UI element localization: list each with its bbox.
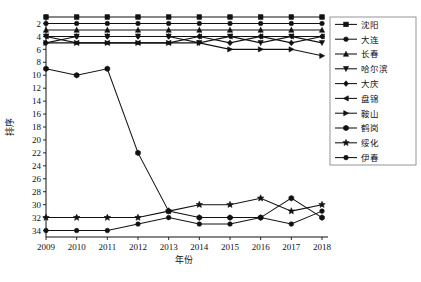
legend-item-label: 大连 — [361, 35, 379, 45]
y-tick-label: 28 — [32, 187, 42, 197]
legend-item-label: 大庆 — [361, 79, 379, 89]
data-point-circle — [44, 21, 49, 26]
data-point-circle — [166, 21, 171, 26]
data-point-square — [105, 15, 110, 20]
x-tick-label: 2014 — [190, 242, 209, 252]
y-tick-label: 16 — [32, 109, 42, 119]
data-point-circle-filled — [258, 215, 263, 220]
legend-item-label: 沈阳 — [361, 20, 379, 30]
y-tick-label: 30 — [32, 200, 42, 210]
y-tick-label: 18 — [32, 122, 42, 132]
y-tick-label: 14 — [32, 96, 42, 106]
data-point-hexagon — [344, 125, 349, 131]
data-point-square — [74, 15, 79, 20]
y-tick-label: 20 — [32, 135, 42, 145]
data-point-hexagon — [197, 215, 202, 221]
data-point-circle-filled — [289, 222, 294, 227]
data-point-square — [228, 15, 233, 20]
x-tick-label: 2018 — [313, 242, 332, 252]
data-point-square — [136, 15, 141, 20]
x-tick-label: 2013 — [160, 242, 179, 252]
data-point-square — [320, 15, 325, 20]
data-point-circle-filled — [228, 222, 233, 227]
data-point-square — [197, 15, 202, 20]
x-tick-label: 2016 — [252, 242, 271, 252]
data-point-circle-filled — [44, 228, 49, 233]
data-point-circle-filled — [344, 155, 349, 160]
data-point-square — [289, 15, 294, 20]
data-point-circle — [228, 21, 233, 26]
y-tick-label: 22 — [32, 148, 41, 158]
legend-item-label: 长春 — [361, 49, 379, 59]
x-tick-label: 2011 — [98, 242, 116, 252]
data-point-circle-filled — [74, 228, 79, 233]
data-point-hexagon — [228, 215, 233, 221]
data-point-square — [166, 15, 171, 20]
data-point-square — [258, 15, 263, 20]
data-point-hexagon — [74, 72, 79, 78]
data-point-circle-filled — [197, 222, 202, 227]
x-tick-label: 2012 — [129, 242, 147, 252]
chart-legend: 沈阳大连长春哈尔滨大庆盘锦鞍山鹤岗绥化伊春 — [330, 17, 416, 165]
data-point-circle — [320, 21, 325, 26]
x-tick-label: 2015 — [221, 242, 240, 252]
data-point-hexagon — [320, 215, 325, 221]
data-point-square — [44, 15, 49, 20]
data-point-circle — [74, 21, 79, 26]
y-tick-label: 2 — [37, 19, 42, 29]
y-tick-label: 6 — [37, 45, 42, 55]
legend-item-label: 绥化 — [361, 138, 379, 148]
data-point-circle-filled — [320, 209, 325, 214]
x-tick-label: 2010 — [68, 242, 87, 252]
x-tick-label: 2017 — [282, 242, 301, 252]
legend-item-label: 盘锦 — [361, 94, 379, 104]
data-point-circle — [105, 21, 110, 26]
legend-item-label: 鞍山 — [361, 109, 379, 119]
y-tick-label: 8 — [37, 57, 42, 67]
data-point-circle — [197, 21, 202, 26]
data-point-hexagon — [44, 66, 49, 72]
data-point-circle-filled — [136, 222, 141, 227]
legend-item-label: 鹤岗 — [361, 123, 379, 133]
data-point-circle-filled — [105, 228, 110, 233]
y-tick-label: 34 — [32, 226, 42, 236]
legend-item-label: 伊春 — [361, 153, 379, 163]
figure-container: 246810121416182022242628303234 200920102… — [0, 0, 421, 282]
y-tick-label: 4 — [37, 32, 42, 42]
data-point-hexagon — [289, 195, 294, 201]
y-tick-label: 24 — [32, 161, 42, 171]
data-point-circle — [289, 21, 294, 26]
legend-item-label: 哈尔滨 — [361, 64, 388, 74]
data-point-hexagon — [136, 150, 141, 156]
data-point-hexagon — [105, 66, 110, 72]
y-axis-title: 排序 — [4, 118, 15, 136]
y-tick-label: 10 — [32, 70, 42, 80]
data-point-circle — [258, 21, 263, 26]
x-axis-title: 年份 — [175, 254, 193, 265]
rank-line-chart: 246810121416182022242628303234 200920102… — [0, 0, 421, 282]
data-point-circle — [344, 37, 349, 42]
y-tick-label: 12 — [32, 83, 41, 93]
data-point-circle-filled — [166, 215, 171, 220]
data-point-square — [344, 22, 349, 27]
y-tick-label: 32 — [32, 213, 41, 223]
x-tick-label: 2009 — [37, 242, 56, 252]
data-point-circle — [136, 21, 141, 26]
y-tick-label: 26 — [32, 174, 42, 184]
